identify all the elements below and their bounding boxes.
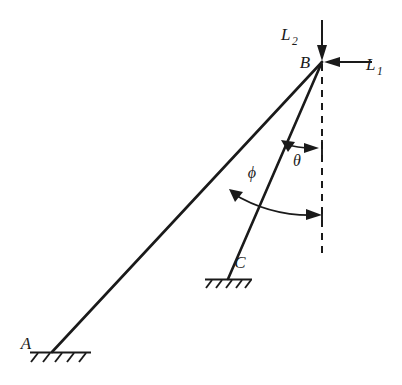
member-line-ab bbox=[52, 62, 322, 352]
angle-label-theta: θ bbox=[293, 152, 301, 169]
load-label-l2-base: L bbox=[280, 25, 290, 44]
member-line-cb bbox=[228, 62, 322, 279]
support-a-hatching bbox=[31, 353, 86, 362]
load-l1-arrowhead bbox=[324, 57, 340, 67]
load-label-l2-subscript: 2 bbox=[292, 35, 298, 47]
angle-phi-arrowhead-end bbox=[306, 209, 322, 220]
load-arrow-l2 bbox=[317, 20, 327, 61]
angle-theta-arrowhead-end bbox=[304, 143, 319, 153]
mechanism-diagram-canvas: A B C L 2 L 1 ϕ θ bbox=[0, 0, 402, 385]
joint-label-c: C bbox=[234, 253, 246, 272]
angle-arc-phi bbox=[229, 189, 322, 223]
support-c-hatching bbox=[206, 280, 251, 288]
load-label-l2: L 2 bbox=[280, 25, 298, 47]
load-label-l1: L 1 bbox=[365, 55, 383, 77]
support-ground-c bbox=[205, 280, 252, 289]
joint-label-b: B bbox=[300, 53, 311, 72]
support-ground-a bbox=[30, 353, 91, 363]
load-l2-arrowhead bbox=[317, 45, 327, 61]
load-arrow-l1 bbox=[324, 57, 372, 67]
angle-phi-arc-path bbox=[232, 193, 318, 215]
linkage-diagram: A B C L 2 L 1 ϕ θ bbox=[0, 0, 402, 385]
angle-arc-theta bbox=[281, 140, 322, 156]
angle-phi-arrowhead-start bbox=[229, 189, 243, 202]
load-label-l1-base: L bbox=[365, 55, 375, 74]
angle-label-phi: ϕ bbox=[248, 164, 256, 182]
joint-label-a: A bbox=[20, 334, 32, 353]
load-label-l1-subscript: 1 bbox=[377, 65, 383, 77]
